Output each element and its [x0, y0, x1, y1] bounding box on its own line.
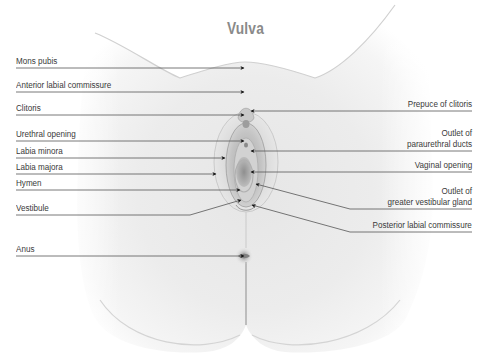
label-clitoris: Clitoris: [16, 103, 41, 114]
label-prepuce-of-clitoris: Prepuce of clitoris: [408, 99, 472, 110]
label-prepuce-of-clitoris-text: Prepuce of clitoris: [408, 99, 472, 110]
label-outlet-paraurethral-ducts-line2: paraurethral ducts: [407, 139, 472, 150]
anatomical-illustration: [0, 0, 491, 361]
label-vaginal-opening: Vaginal opening: [415, 160, 472, 171]
label-labia-minora: Labia minora: [16, 146, 63, 157]
label-outlet-greater-vestibular-gland: Outlet of greater vestibular gland: [387, 186, 472, 208]
label-anterior-labial-commissure: Anterior labial commissure: [16, 80, 111, 91]
vulva-anatomy-diagram: Vulva Mons pubis Anterior labial commiss…: [0, 0, 491, 361]
label-posterior-labial-commissure-text: Posterior labial commissure: [373, 220, 472, 231]
label-outlet-greater-vestibular-gland-line1: Outlet of: [387, 186, 472, 197]
label-labia-majora: Labia majora: [16, 162, 63, 173]
label-posterior-labial-commissure: Posterior labial commissure: [373, 220, 472, 231]
label-vestibule: Vestibule: [16, 203, 49, 214]
label-outlet-paraurethral-ducts-line1: Outlet of: [407, 128, 472, 139]
label-outlet-greater-vestibular-gland-line2: greater vestibular gland: [387, 197, 472, 208]
label-anus: Anus: [16, 244, 34, 255]
label-hymen: Hymen: [16, 178, 42, 189]
label-mons-pubis: Mons pubis: [16, 56, 57, 67]
label-vaginal-opening-text: Vaginal opening: [415, 160, 472, 171]
label-urethral-opening: Urethral opening: [16, 129, 76, 140]
label-outlet-paraurethral-ducts: Outlet of paraurethral ducts: [407, 128, 472, 150]
diagram-title: Vulva: [34, 20, 456, 38]
